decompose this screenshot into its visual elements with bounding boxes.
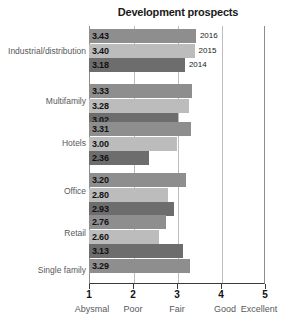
bar-value-label: 3.20 bbox=[92, 176, 109, 185]
tick-number-4: 4 bbox=[206, 290, 236, 300]
tick-number-2: 2 bbox=[118, 290, 148, 300]
tick-number-1: 1 bbox=[74, 290, 104, 300]
chart-title: Development prospects bbox=[88, 6, 268, 18]
bar-row[interactable]: 2.76 bbox=[0, 215, 287, 229]
bar-row[interactable]: 3.20 bbox=[0, 173, 287, 187]
category-label-hotels: Hotels bbox=[0, 139, 86, 148]
category-label-multifamily: Multifamily bbox=[0, 97, 86, 106]
category-label-industrial: Industrial/distribution bbox=[0, 47, 86, 56]
bar-value-label: 3.13 bbox=[92, 247, 109, 256]
tick-number-5: 5 bbox=[250, 290, 280, 300]
bar-row[interactable]: 3.31 bbox=[0, 122, 287, 136]
bar-row[interactable]: 2.93 bbox=[0, 202, 287, 216]
tick-number-3: 3 bbox=[162, 290, 192, 300]
bar-row[interactable]: 3.432016 bbox=[0, 29, 287, 43]
bar-value-label: 2.76 bbox=[92, 218, 109, 227]
bar-value-label: 3.31 bbox=[92, 125, 109, 134]
category-label-retail: Retail bbox=[0, 229, 86, 238]
bar-value-label: 3.18 bbox=[92, 61, 109, 70]
bar-value-label: 2.60 bbox=[92, 232, 109, 241]
bar-value-label: 3.43 bbox=[92, 32, 109, 41]
year-label-2016: 2016 bbox=[196, 32, 218, 40]
bar-row[interactable]: 2.36 bbox=[0, 151, 287, 165]
bar-value-label: 2.80 bbox=[92, 190, 109, 199]
category-label-office: Office bbox=[0, 187, 86, 196]
development-prospects-chart: Development prospects 3.4320163.4020153.… bbox=[0, 0, 287, 328]
tick-word-excellent: Excellent bbox=[229, 305, 287, 314]
bar-row[interactable]: 3.182014 bbox=[0, 58, 287, 72]
bar-value-label: 3.28 bbox=[92, 101, 109, 110]
bar-value-label: 2.93 bbox=[92, 205, 109, 214]
bar-value-label: 3.33 bbox=[92, 87, 109, 96]
category-label-single_family: Single family bbox=[0, 266, 86, 275]
bar-value-label: 3.29 bbox=[92, 262, 109, 271]
bar-row[interactable]: 3.33 bbox=[0, 84, 287, 98]
bar-value-label: 3.00 bbox=[92, 139, 109, 148]
bar-value-label: 2.36 bbox=[92, 154, 109, 163]
year-label-2015: 2015 bbox=[195, 47, 217, 55]
bar-row[interactable]: 3.13 bbox=[0, 244, 287, 258]
bar-value-label: 3.40 bbox=[92, 46, 109, 55]
year-label-2014: 2014 bbox=[185, 61, 207, 69]
